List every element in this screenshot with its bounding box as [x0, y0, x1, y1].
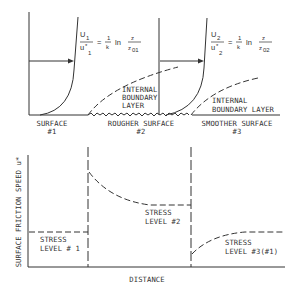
- arrowhead-1-icon: [68, 59, 74, 64]
- y-axis-label: SURFACE FRICTION SPEED u*: [14, 157, 23, 268]
- svg-text:ln: ln: [246, 38, 252, 47]
- svg-text:1: 1: [86, 35, 90, 41]
- x-axis-label: DISTANCE: [129, 275, 164, 284]
- svg-text:z: z: [128, 45, 131, 51]
- diagram-canvas: U 1 u * 1 = 1 k ln z z 01 U 2 u * 2 = 1 …: [0, 0, 299, 293]
- svg-text:*: *: [216, 43, 219, 49]
- svg-text:k: k: [106, 44, 110, 50]
- equation-2: U 2 u * 2 = 1 k ln z z 02: [211, 30, 272, 56]
- svg-text:z: z: [262, 35, 265, 41]
- stress-level-2-curve: [89, 172, 191, 205]
- svg-text:2: 2: [217, 35, 221, 41]
- ibl-1-label-line3: LAYER: [122, 101, 145, 110]
- svg-text:1: 1: [88, 50, 92, 56]
- equation-1: U 1 u * 1 = 1 k ln z z 01: [80, 30, 141, 56]
- svg-text:ln: ln: [115, 38, 121, 47]
- svg-text:01: 01: [132, 47, 139, 53]
- svg-text:02: 02: [263, 47, 270, 53]
- ibl-2-label-line1: INTERNAL: [212, 96, 247, 105]
- svg-text:1: 1: [238, 35, 242, 41]
- svg-text:*: *: [85, 43, 88, 49]
- stress-level-2-label-line1: STRESS: [145, 208, 172, 217]
- svg-text:2: 2: [219, 50, 223, 56]
- arrowhead-2-icon: [198, 59, 204, 64]
- stress-level-3-label-line1: STRESS: [225, 238, 252, 247]
- svg-text:U: U: [80, 30, 85, 39]
- wind-profile-curve-2: [166, 18, 207, 115]
- ground-line-rough-2: [88, 113, 189, 116]
- svg-text:=: =: [97, 38, 102, 47]
- stress-level-3-label-line2: LEVEL #3(#1): [225, 247, 278, 256]
- svg-text:U: U: [211, 30, 216, 39]
- svg-text:u: u: [80, 43, 84, 52]
- surface-3-number: #3: [233, 127, 242, 136]
- svg-text:k: k: [237, 44, 241, 50]
- stress-level-2-label-line2: LEVEL #2: [145, 217, 180, 226]
- svg-text:z: z: [131, 35, 134, 41]
- surface-2-number: #2: [137, 127, 146, 136]
- svg-text:=: =: [228, 38, 233, 47]
- stress-level-1-label-line2: LEVEL # 1: [40, 244, 80, 253]
- svg-text:1: 1: [107, 35, 111, 41]
- surface-1-number: #1: [48, 127, 57, 136]
- svg-text:z: z: [259, 45, 262, 51]
- stress-level-1-label-line1: STRESS: [40, 235, 67, 244]
- svg-text:u: u: [211, 43, 215, 52]
- ibl-2-label-line2: BOUNDARY LAYER: [212, 105, 275, 114]
- wind-profile-curve-1: [40, 17, 78, 115]
